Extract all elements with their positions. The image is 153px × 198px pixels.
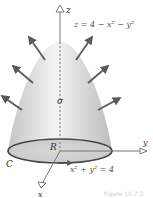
z-axis-arrowhead [56,5,64,12]
normal-arrow [13,66,33,83]
region-label: R [49,142,57,152]
normal-arrow [76,37,92,60]
figure-caption: Figure 15.7.3 [104,190,143,197]
z-axis-label: z [65,5,71,15]
normal-arrow [98,98,120,110]
x-axis-arrowhead [38,182,46,188]
surface-label: σ [57,96,64,106]
normal-arrow [2,96,22,110]
curve-label: C [6,159,13,169]
normal-arrow [29,37,45,60]
boundary-equation: x² + y² = 4 [70,165,114,174]
x-axis-label: x [38,190,43,198]
y-axis-arrowhead [140,148,147,154]
y-axis-label: y [142,138,148,147]
normal-arrow [88,66,108,83]
surface-equation: z = 4 − x² − y² [74,20,134,29]
